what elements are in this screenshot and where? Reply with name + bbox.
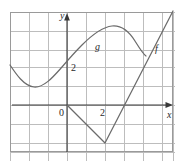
y-axis-arrow: [64, 13, 70, 21]
curve-label-f: f: [155, 44, 158, 54]
x-tick-label-2: 2: [100, 108, 105, 118]
x-axis-arrow: [166, 102, 174, 108]
x-axis: [12, 102, 173, 108]
grid-border: [11, 13, 173, 152]
curve-g: [10, 26, 146, 87]
x-axis-label: x: [167, 110, 171, 120]
math-graph-figure: y x 0 2 2 g f: [0, 0, 183, 161]
curve-label-g: g: [95, 42, 100, 52]
origin-label: 0: [59, 108, 64, 118]
y-axis-label: y: [60, 11, 64, 21]
graph-canvas: [0, 0, 183, 161]
y-tick-label-2: 2: [71, 63, 76, 73]
y-axis: [64, 13, 70, 152]
